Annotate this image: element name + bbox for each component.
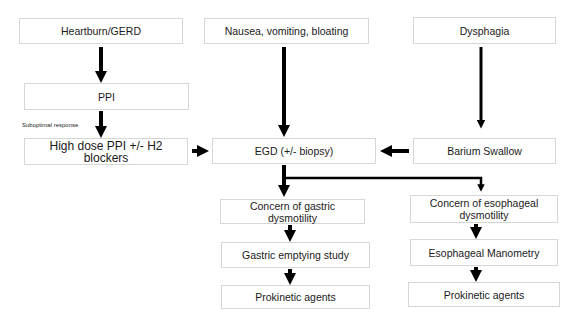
node-egd-biopsy: EGD (+/- biopsy) bbox=[212, 138, 376, 164]
node-esophageal-prokinetic-agents: Prokinetic agents bbox=[408, 282, 560, 307]
edge-label-suboptimal-response: Suboptimal response bbox=[22, 122, 78, 128]
node-esophageal-dysmotility-concern: Concern of esophageal dysmotility bbox=[410, 195, 558, 223]
node-high-dose-ppi: High dose PPI +/- H2 blockers bbox=[24, 138, 188, 165]
node-gastric-dysmotility-concern: Concern of gastric dysmotility bbox=[220, 199, 365, 224]
node-ppi: PPI bbox=[24, 83, 189, 110]
node-gastric-prokinetic-agents: Prokinetic agents bbox=[221, 285, 370, 309]
arrow-egd-to-esoph-concern bbox=[284, 178, 481, 188]
node-nausea-vomiting-bloating: Nausea, vomiting, bloating bbox=[204, 18, 369, 44]
node-barium-swallow: Barium Swallow bbox=[413, 138, 556, 164]
node-dysphagia: Dysphagia bbox=[413, 17, 556, 44]
node-esophageal-manometry: Esophageal Manometry bbox=[410, 239, 558, 266]
node-gastric-emptying-study: Gastric emptying study bbox=[221, 242, 370, 268]
node-heartburn-gerd: Heartburn/GERD bbox=[19, 18, 183, 44]
